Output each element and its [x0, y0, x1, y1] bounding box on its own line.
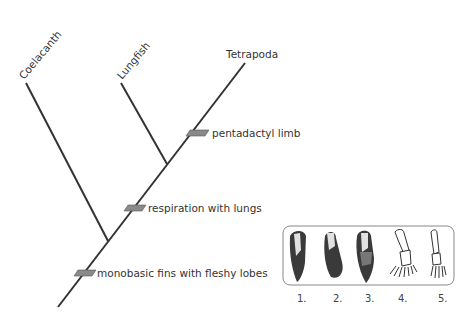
- limb-label-2: 2.: [333, 293, 343, 304]
- cladogram: Coelacanth Lungfish Tetrapoda pentadacty…: [0, 0, 473, 318]
- pentadactyl-marker: [186, 130, 209, 136]
- limb-label-5: 5.: [438, 293, 448, 304]
- character-lungs: respiration with lungs: [148, 202, 262, 214]
- limb-label-3: 3.: [365, 293, 375, 304]
- taxon-tetrapoda: Tetrapoda: [225, 48, 278, 60]
- character-pentadactyl: pentadactyl limb: [212, 127, 301, 139]
- lungs-marker: [124, 205, 146, 211]
- fins-marker: [74, 270, 96, 276]
- limb-label-4: 4.: [398, 293, 408, 304]
- taxon-lungfish: Lungfish: [114, 40, 152, 82]
- taxon-coelacanth: Coelacanth: [16, 28, 63, 81]
- character-fins: monobasic fins with fleshy lobes: [97, 267, 268, 279]
- limb-label-1: 1.: [297, 293, 307, 304]
- lungfish-branch: [121, 83, 167, 164]
- coelacanth-branch: [26, 83, 108, 241]
